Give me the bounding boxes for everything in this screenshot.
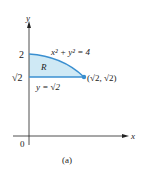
y-axis-label: y xyxy=(25,13,30,23)
caption: (a) xyxy=(62,155,72,165)
point-label: (√2, √2) xyxy=(87,73,116,83)
x-axis-label: x xyxy=(130,131,135,141)
intersection-point xyxy=(82,75,86,79)
region-diagram: y x 0 2 √2 R x² + y² = 4 y = √2 (√2, √2)… xyxy=(0,0,141,172)
y-tick-sqrt2: √2 xyxy=(12,72,23,83)
line-equation: y = √2 xyxy=(35,82,61,92)
origin-label: 0 xyxy=(20,139,25,149)
region-label: R xyxy=(40,62,47,72)
curve-equation: x² + y² = 4 xyxy=(50,47,91,57)
region-r-fill xyxy=(29,54,84,77)
y-tick-2: 2 xyxy=(19,49,24,60)
x-axis-arrow-icon xyxy=(122,134,129,138)
